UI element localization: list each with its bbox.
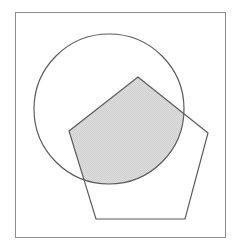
geometry-figure <box>0 0 237 248</box>
figure-container <box>0 0 237 248</box>
